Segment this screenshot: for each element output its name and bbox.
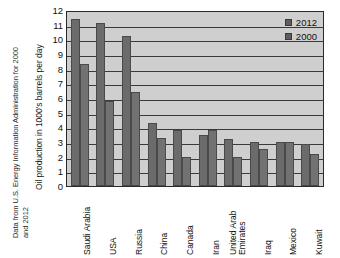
bar-group: [221, 12, 247, 186]
bar-group: [118, 12, 144, 186]
bar-group: [67, 12, 93, 186]
x-tick-label-line: Russia: [134, 229, 144, 255]
bar-2012: [173, 130, 182, 186]
source-note-line-1: Data from U.S. Energy Information Admini…: [11, 47, 21, 238]
y-tick-label: 0: [58, 182, 63, 192]
y-tick-label: 5: [58, 109, 63, 119]
legend-swatch-icon: [285, 33, 292, 40]
bar-2012: [199, 135, 208, 186]
y-tick-label: 10: [52, 35, 63, 45]
y-tick-label: 8: [58, 65, 63, 75]
bar-group: [169, 12, 195, 186]
bar-2000: [285, 142, 294, 186]
x-tick-label-line: Kuwait: [314, 229, 324, 255]
bar-2000: [105, 101, 114, 186]
bar-2012: [224, 139, 233, 186]
x-axis-tick-labels: Saudi ArabiaUSARussiaChinaCanadaIranUnit…: [66, 189, 324, 258]
x-tick-label-line: Saudi Arabia: [82, 207, 92, 255]
bar-2012: [148, 123, 157, 186]
y-tick-label: 7: [58, 79, 63, 89]
legend-swatch-icon: [285, 19, 292, 26]
bar-2000: [259, 149, 268, 186]
bar-2012: [250, 142, 259, 186]
x-tick-label-line: USA: [108, 238, 118, 255]
x-tick-label-line: China: [159, 233, 169, 255]
x-tick-label-line: Mexico: [288, 228, 298, 255]
bar-2012: [276, 142, 285, 186]
y-tick-label: 12: [52, 6, 63, 16]
x-tick-label-line: Iran: [211, 240, 221, 255]
y-tick-label: 3: [58, 138, 63, 148]
bar-group: [144, 12, 170, 186]
y-tick-label: 6: [58, 94, 63, 104]
bar-2000: [157, 138, 166, 186]
source-note-line-2: and 2012: [21, 207, 31, 238]
bar-2012: [122, 36, 131, 186]
bar-group: [195, 12, 221, 186]
y-tick-label: 4: [58, 123, 63, 133]
y-tick-label: 11: [53, 21, 63, 31]
bar-2000: [80, 64, 89, 186]
y-axis-tick-labels: 1211109876543210: [46, 0, 63, 200]
legend-item: 2012: [285, 18, 317, 28]
bar-2000: [131, 92, 140, 186]
x-tick-label-line: Canada: [185, 225, 195, 255]
bar-2000: [233, 157, 242, 186]
bar-group: [93, 12, 119, 186]
bar-2012: [96, 23, 105, 186]
y-tick-label: 2: [58, 153, 63, 163]
bar-group: [246, 12, 272, 186]
bar-2012: [71, 19, 80, 186]
legend: 20122000: [285, 18, 317, 41]
x-tick-label-line: Emirates: [238, 211, 247, 255]
legend-label: 2000: [296, 32, 317, 42]
bar-2000: [182, 157, 191, 186]
y-tick-label: 1: [58, 167, 63, 177]
legend-label: 2012: [296, 18, 317, 28]
plot-area: 20122000: [66, 11, 324, 187]
y-tick-label: 9: [58, 50, 63, 60]
bar-2000: [208, 130, 217, 186]
bar-2000: [310, 154, 319, 186]
x-tick-label-line: Iraq: [263, 240, 273, 255]
y-axis-title-label: Oil production in 1000's barrels per day: [34, 44, 44, 190]
bar-2012: [301, 144, 310, 186]
source-note: Data from U.S. Energy Information Admini…: [0, 0, 30, 258]
legend-item: 2000: [285, 32, 317, 42]
